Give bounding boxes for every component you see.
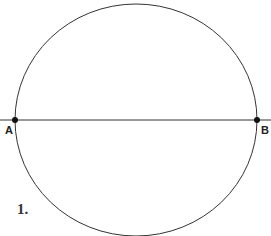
point-b-label: B xyxy=(261,125,269,136)
point-a-dot xyxy=(12,117,18,123)
diagram-canvas: A B 1. xyxy=(0,0,271,236)
figure-number: 1. xyxy=(17,202,28,217)
point-a-label: A xyxy=(5,125,13,136)
circle-diagram xyxy=(0,0,271,236)
point-b-dot xyxy=(254,117,260,123)
